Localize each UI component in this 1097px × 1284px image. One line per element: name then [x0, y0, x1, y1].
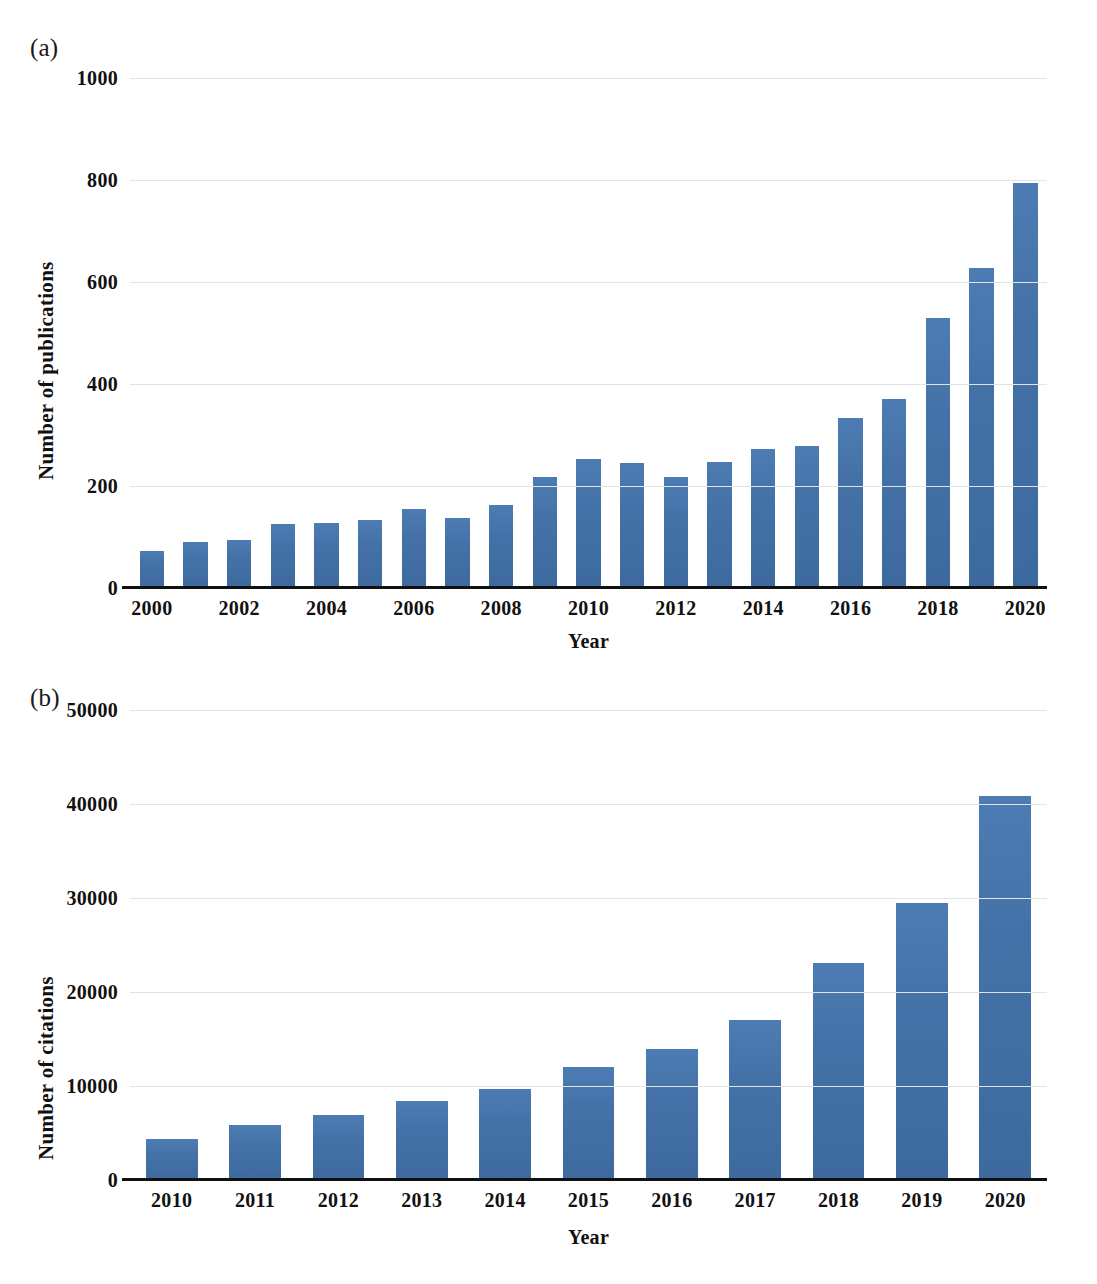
x-axis-tick-label: 2014 [743, 597, 784, 620]
panel-b: (b) 201020112012201320142015201620172018… [0, 670, 1097, 1284]
bar-2007[interactable] [445, 518, 469, 588]
panel-b-label: (b) [30, 684, 60, 712]
bar-2015[interactable] [795, 446, 819, 588]
bar-slot [348, 78, 392, 588]
gridline [130, 1086, 1047, 1087]
bar-slot: 2018 [916, 78, 960, 588]
bar-2008[interactable] [489, 505, 513, 588]
bar-slot [960, 78, 1004, 588]
x-axis-tick-label: 2020 [1005, 597, 1046, 620]
y-axis-tick-label: 800 [87, 169, 118, 192]
bar-slot: 2011 [213, 710, 296, 1180]
y-axis-tick-label: 30000 [67, 887, 119, 910]
gridline [130, 486, 1047, 487]
bar-slot [698, 78, 742, 588]
x-axis-tick-label: 2016 [651, 1189, 692, 1212]
gridline [130, 992, 1047, 993]
x-axis-tick-label: 2020 [985, 1189, 1026, 1212]
bar-slot: 2000 [130, 78, 174, 588]
y-axis-tick-label: 0 [108, 577, 118, 600]
bar-2018[interactable] [926, 318, 950, 588]
bar-series-b: 2010201120122013201420152016201720182019… [130, 710, 1047, 1180]
bar-2005[interactable] [358, 520, 382, 588]
bar-slot: 2016 [829, 78, 873, 588]
panel-b-x-axis-line [122, 1178, 1047, 1181]
x-axis-tick-label: 2019 [901, 1189, 942, 1212]
bar-2014[interactable] [479, 1089, 531, 1180]
bar-slot [523, 78, 567, 588]
x-axis-tick-label: 2018 [917, 597, 958, 620]
bar-2018[interactable] [813, 963, 865, 1180]
x-axis-tick-label: 2018 [818, 1189, 859, 1212]
bar-2000[interactable] [140, 551, 164, 588]
gridline [130, 282, 1047, 283]
bar-2002[interactable] [227, 540, 251, 588]
x-axis-tick-label: 2016 [830, 597, 871, 620]
y-axis-tick-label: 400 [87, 373, 118, 396]
x-axis-tick-label: 2012 [655, 597, 696, 620]
bar-2010[interactable] [576, 459, 600, 588]
bar-2017[interactable] [729, 1020, 781, 1180]
bar-2019[interactable] [896, 903, 948, 1180]
x-axis-tick-label: 2006 [393, 597, 434, 620]
bar-slot: 2006 [392, 78, 436, 588]
bar-slot [436, 78, 480, 588]
bar-slot: 2019 [880, 710, 963, 1180]
bar-2012[interactable] [313, 1115, 365, 1180]
bar-slot: 2014 [741, 78, 785, 588]
bar-2010[interactable] [146, 1139, 198, 1180]
bar-slot [261, 78, 305, 588]
bar-2014[interactable] [751, 449, 775, 588]
gridline [130, 384, 1047, 385]
x-axis-tick-label: 2002 [219, 597, 260, 620]
bar-2004[interactable] [314, 523, 338, 588]
bar-2006[interactable] [402, 509, 426, 588]
gridline [130, 180, 1047, 181]
bar-slot [610, 78, 654, 588]
bar-slot [174, 78, 218, 588]
panel-a-label: (a) [30, 34, 58, 62]
bar-2012[interactable] [664, 477, 688, 588]
bar-2020[interactable] [979, 796, 1031, 1180]
y-axis-tick-label: 10000 [67, 1075, 119, 1098]
bar-2020[interactable] [1013, 183, 1037, 588]
bar-2013[interactable] [396, 1101, 448, 1180]
x-axis-tick-label: 2008 [481, 597, 522, 620]
x-axis-tick-label: 2004 [306, 597, 347, 620]
bar-series-a: 2000200220042006200820102012201420162018… [130, 78, 1047, 588]
bar-slot [872, 78, 916, 588]
gridline [130, 710, 1047, 711]
bar-2009[interactable] [533, 477, 557, 588]
bar-2003[interactable] [271, 524, 295, 588]
panel-b-x-axis-title: Year [130, 1226, 1047, 1249]
bar-slot: 2020 [964, 710, 1047, 1180]
gridline [130, 78, 1047, 79]
y-axis-tick-label: 20000 [67, 981, 119, 1004]
panel-a-x-axis-line [122, 586, 1047, 589]
bar-2017[interactable] [882, 399, 906, 588]
bar-slot: 2010 [567, 78, 611, 588]
x-axis-tick-label: 2014 [485, 1189, 526, 1212]
bar-2016[interactable] [646, 1049, 698, 1180]
bar-2019[interactable] [969, 268, 993, 588]
x-axis-tick-label: 2012 [318, 1189, 359, 1212]
y-axis-tick-label: 0 [108, 1169, 118, 1192]
x-axis-tick-label: 2010 [151, 1189, 192, 1212]
bar-2011[interactable] [620, 463, 644, 588]
bar-slot: 2017 [714, 710, 797, 1180]
panel-a: (a) Number of publications 2000200220042… [0, 0, 1097, 670]
bar-2001[interactable] [183, 542, 207, 588]
panel-a-plot-area: 2000200220042006200820102012201420162018… [130, 78, 1047, 588]
x-axis-tick-label: 2011 [235, 1189, 275, 1212]
gridline [130, 804, 1047, 805]
bar-slot: 2008 [479, 78, 523, 588]
bar-2015[interactable] [563, 1067, 615, 1180]
bar-slot: 2010 [130, 710, 213, 1180]
bar-slot: 2020 [1003, 78, 1047, 588]
y-axis-tick-label: 50000 [67, 699, 119, 722]
bar-2016[interactable] [838, 418, 862, 588]
bar-2013[interactable] [707, 462, 731, 588]
x-axis-tick-label: 2013 [401, 1189, 442, 1212]
bar-2011[interactable] [229, 1125, 281, 1180]
panel-a-y-axis-title: Number of publications [34, 261, 59, 480]
